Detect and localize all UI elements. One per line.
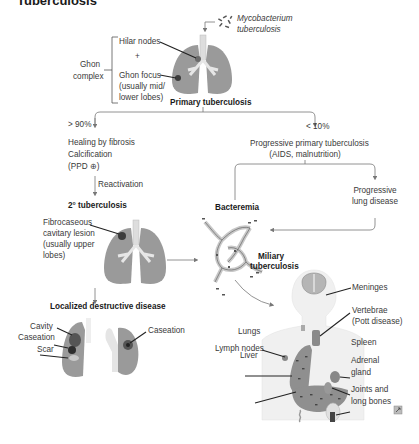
liver-label: Liver [240,351,258,362]
vertebrae-label-2: (Pott disease) [352,317,403,328]
left-branch-percent: > 90% [68,120,91,131]
right-branch-percent: < 10% [306,122,329,133]
scar-label: Scar [37,345,54,356]
bacteremia-label: Bacteremia [215,203,259,214]
joints-label-1: Joints and [351,385,388,396]
lesion-label-4: lobes) [43,251,65,262]
progressive-lung-label-1: Progressive [350,186,400,197]
miliary-label-1: Miliary [258,252,284,263]
ghon-complex-label-2: complex [73,72,104,83]
reactivation-label: Reactivation [98,180,143,191]
localized-title: Localized destructive disease [50,302,166,313]
lungs-label: Lungs [238,327,260,338]
hilar-nodes-label: Hilar nodes [119,37,160,48]
human-body-icon [262,270,364,422]
ghon-focus-label-2: (usually mid/ [119,82,165,93]
vertebrae-label-1: Vertebrae [352,306,388,317]
lesion-label-3: (usually upper [43,240,94,251]
organism-label-1: Mycobacterium [237,14,293,25]
adrenal-label-1: Adrenal [351,356,379,367]
ppd-label: (PPD ⊕) [68,162,100,173]
cavity-label: Cavity [30,322,53,333]
progressive-lung-label-2: lung disease [350,197,400,208]
lesion-label-2: cavitary lesion [43,229,95,240]
progressive-primary-label-2: (AIDS, malnutrition) [250,150,360,161]
progressive-primary-label-1: Progressive primary tuberculosis [250,139,360,150]
organism-label-2: tuberculosis [237,25,281,36]
blood-vessel-network-icon [205,222,262,282]
mycobacteria-icon [218,15,232,28]
primary-lungs-icon [172,35,232,94]
joints-label-2: long bones [351,397,391,408]
plus-sign: + [135,52,140,63]
secondary-lungs-icon [104,220,166,284]
healing-label: Healing by fibrosis [68,138,135,149]
ghon-complex-label-1: Ghon [80,60,100,71]
secondary-tb-title: 2° tuberculosis [68,201,127,212]
spleen-label: Spleen [351,338,377,349]
localized-lung-right-icon [105,328,138,375]
calcification-label: Calcification [68,150,112,161]
lesion-label-1: Fibrocaseous [43,218,92,229]
primary-tb-label: Primary tuberculosis [170,98,251,109]
miliary-label-2: tuberculosis [250,262,299,273]
caseation-left-label: Caseation [18,333,55,344]
meninges-label: Meninges [352,283,388,294]
ghon-focus-label-1: Ghon focus [119,71,161,82]
caseation-right-label: Caseation [148,326,185,337]
adrenal-label-2: gland [351,368,371,379]
ghon-focus-label-3: lower lobes) [119,93,163,104]
enlarge-icon [394,406,402,414]
